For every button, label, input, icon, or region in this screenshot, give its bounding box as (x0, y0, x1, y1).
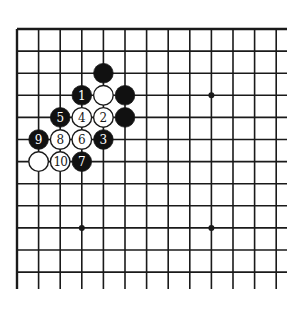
white-stone-2: 2 (94, 108, 114, 128)
move-number-label: 2 (100, 111, 108, 125)
move-number-label: 10 (54, 155, 68, 169)
go-board: 15429863107 (0, 0, 294, 322)
white-stone-10: 10 (50, 152, 70, 172)
star-point-icon (208, 225, 214, 231)
move-number-label: 3 (100, 133, 108, 147)
move-number-label: 5 (56, 111, 64, 125)
black-stone-7: 7 (72, 152, 92, 172)
white-stone (94, 86, 114, 106)
star-point-icon (79, 225, 85, 231)
black-stone (94, 63, 114, 83)
move-number-label: 4 (78, 111, 86, 125)
move-number-label: 7 (78, 155, 86, 169)
white-stone-6: 6 (72, 130, 92, 150)
black-stone-5: 5 (50, 108, 70, 128)
black-stone-9: 9 (29, 130, 49, 150)
move-number-label: 6 (78, 133, 86, 147)
star-point-icon (208, 92, 214, 98)
black-stone (115, 86, 135, 106)
white-stone-4: 4 (72, 108, 92, 128)
move-number-label: 9 (35, 133, 43, 147)
white-stone-8: 8 (50, 130, 70, 150)
black-stone (115, 108, 135, 128)
black-stone-3: 3 (94, 130, 114, 150)
white-stone-icon (94, 86, 114, 106)
black-stone-icon (94, 63, 114, 83)
white-stone-icon (29, 152, 49, 172)
white-stone (29, 152, 49, 172)
black-stone-1: 1 (72, 86, 92, 106)
move-number-label: 8 (56, 133, 64, 147)
black-stone-icon (115, 108, 135, 128)
black-stone-icon (115, 86, 135, 106)
move-number-label: 1 (78, 89, 86, 103)
